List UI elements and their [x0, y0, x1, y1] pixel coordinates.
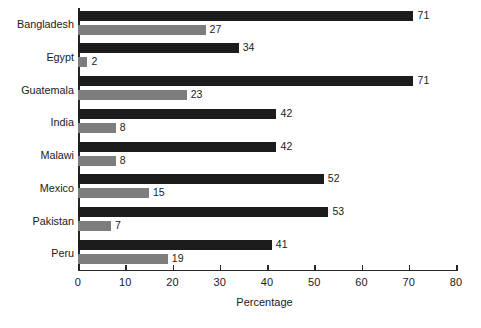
- x-tick-mark: [267, 265, 269, 271]
- category-label: Bangladesh: [4, 18, 74, 30]
- bar: [78, 254, 168, 264]
- bar-value-label: 53: [332, 206, 344, 216]
- bar: [78, 11, 413, 21]
- bar: [78, 221, 111, 231]
- category-label: Malawi: [4, 149, 74, 161]
- bar-value-label: 2: [91, 56, 97, 66]
- bar: [78, 240, 272, 250]
- bar-value-label: 15: [153, 187, 165, 197]
- bar-value-label: 52: [328, 173, 340, 183]
- x-tick-mark: [409, 265, 411, 271]
- bar: [78, 43, 239, 53]
- bar: [78, 156, 116, 166]
- bar: [78, 25, 206, 35]
- category-label: India: [4, 116, 74, 128]
- bar: [78, 90, 187, 100]
- bar-group: 7127: [78, 8, 456, 39]
- bar-value-label: 71: [417, 10, 429, 20]
- bar: [78, 109, 276, 119]
- x-tick-label: 20: [158, 276, 188, 288]
- bar: [78, 76, 413, 86]
- category-label: Guatemala: [4, 84, 74, 96]
- x-tick-label: 0: [63, 276, 93, 288]
- bar-group: 5215: [78, 172, 456, 203]
- bar-value-label: 7: [115, 220, 121, 230]
- bar-value-label: 42: [280, 141, 292, 151]
- x-tick-label: 80: [441, 276, 471, 288]
- x-tick-mark: [173, 265, 175, 271]
- bar: [78, 188, 149, 198]
- bar-value-label: 34: [243, 42, 255, 52]
- bar-group: 537: [78, 205, 456, 236]
- bar-value-label: 42: [280, 108, 292, 118]
- bar-group: 428: [78, 106, 456, 137]
- bar-value-label: 19: [172, 253, 184, 263]
- x-tick-mark: [125, 265, 127, 271]
- bar: [78, 207, 328, 217]
- horizontal-bar-chart: BangladeshEgyptGuatemalaIndiaMalawiMexic…: [0, 0, 481, 328]
- x-tick-label: 60: [347, 276, 377, 288]
- bar-group: 342: [78, 41, 456, 72]
- category-label: Mexico: [4, 182, 74, 194]
- category-axis-labels: BangladeshEgyptGuatemalaIndiaMalawiMexic…: [0, 8, 74, 270]
- plot-area: 7127342712342842852155374119: [78, 8, 456, 270]
- bar-value-label: 71: [417, 75, 429, 85]
- bar-group: 7123: [78, 74, 456, 105]
- x-axis-title: Percentage: [0, 296, 481, 308]
- category-label: Pakistan: [4, 215, 74, 227]
- bar-value-label: 8: [120, 155, 126, 165]
- x-tick-label: 50: [299, 276, 329, 288]
- bar: [78, 174, 324, 184]
- x-tick-label: 10: [110, 276, 140, 288]
- x-axis-title-label: Percentage: [236, 296, 292, 308]
- bar: [78, 57, 87, 67]
- x-tick-mark: [220, 265, 222, 271]
- bar-value-label: 8: [120, 122, 126, 132]
- x-tick-label: 30: [205, 276, 235, 288]
- category-label: Peru: [4, 247, 74, 259]
- x-tick-mark: [314, 265, 316, 271]
- bar-group: 428: [78, 139, 456, 170]
- bar-value-label: 41: [276, 239, 288, 249]
- bar-value-label: 27: [210, 24, 222, 34]
- x-tick-mark: [456, 265, 458, 271]
- x-tick-mark: [362, 265, 364, 271]
- bar-value-label: 23: [191, 89, 203, 99]
- category-label: Egypt: [4, 51, 74, 63]
- x-tick-label: 70: [394, 276, 424, 288]
- x-tick-label: 40: [252, 276, 282, 288]
- bar: [78, 123, 116, 133]
- bar: [78, 142, 276, 152]
